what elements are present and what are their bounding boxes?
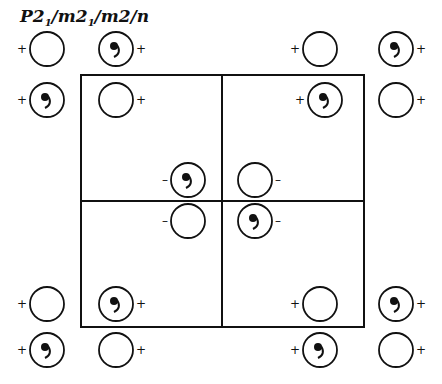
height-minus-sign: –	[275, 214, 281, 228]
height-plus-sign: +	[290, 343, 300, 357]
height-plus-sign: +	[17, 297, 27, 311]
height-plus-sign: +	[290, 297, 300, 311]
position-circle-icon	[303, 287, 337, 321]
position-circle-icon	[30, 287, 64, 321]
position-circle-icon	[379, 333, 413, 367]
height-plus-sign: +	[17, 93, 27, 107]
height-plus-sign: +	[416, 297, 426, 311]
space-group-diagram: ++++++++––––++++++++	[0, 0, 442, 384]
height-minus-sign: –	[162, 214, 168, 228]
height-plus-sign: +	[416, 93, 426, 107]
height-plus-sign: +	[295, 93, 305, 107]
height-plus-sign: +	[136, 42, 146, 56]
position-circle-icon	[30, 32, 64, 66]
height-minus-sign: –	[162, 173, 168, 187]
position-circle-icon	[238, 163, 272, 197]
position-circle-icon	[303, 32, 337, 66]
height-plus-sign: +	[17, 42, 27, 56]
height-plus-sign: +	[136, 93, 146, 107]
position-circle-icon	[171, 204, 205, 238]
position-circle-icon	[99, 333, 133, 367]
position-circle-icon	[379, 83, 413, 117]
height-plus-sign: +	[136, 343, 146, 357]
height-plus-sign: +	[136, 297, 146, 311]
height-plus-sign: +	[17, 343, 27, 357]
height-plus-sign: +	[416, 343, 426, 357]
height-minus-sign: –	[275, 173, 281, 187]
position-circle-icon	[99, 83, 133, 117]
height-plus-sign: +	[290, 42, 300, 56]
height-plus-sign: +	[416, 42, 426, 56]
